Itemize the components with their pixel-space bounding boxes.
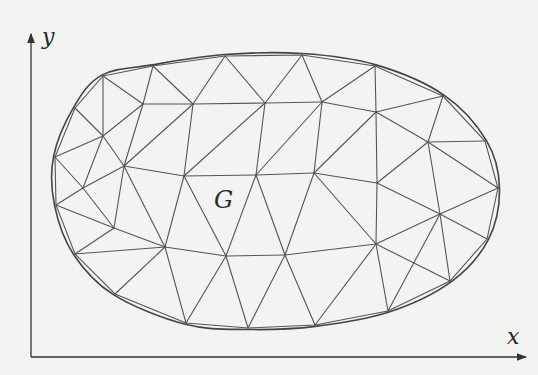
mesh-edge [428,142,440,214]
triangulated-region-diagram [0,0,538,375]
region-boundary [52,53,500,330]
mesh-edge [225,56,265,103]
mesh-edge [376,96,443,112]
mesh-edge [75,247,165,254]
mesh-edge [226,256,248,328]
mesh-edge [377,142,428,183]
mesh-edge [124,166,165,247]
mesh-edge [265,55,302,103]
mesh-edge [265,102,322,103]
mesh-edge [143,66,153,104]
mesh-edge [124,104,143,166]
mesh-edge [184,175,256,176]
mesh-edge [248,255,285,328]
mesh-edge [428,96,443,142]
mesh-boundary-polygon [55,55,498,328]
mesh-edge [314,173,376,244]
mesh-edge [103,104,143,136]
mesh-edge [440,188,498,214]
mesh-edge [256,102,322,175]
mesh-edge [322,66,375,102]
triangle-mesh [55,55,498,328]
mesh-edge [376,112,377,183]
mesh-edge [153,66,193,104]
x-axis-label: x [507,326,519,348]
mesh-edge [55,157,83,188]
mesh-edge [376,183,377,244]
mesh-edge [75,108,103,136]
mesh-edge [103,136,124,166]
mesh-edge [440,214,450,281]
mesh-edge [314,173,377,183]
mesh-edge [165,176,184,247]
mesh-edge [256,103,265,175]
mesh-edge [256,175,285,255]
mesh-edge [114,166,124,228]
mesh-edge [165,247,226,256]
mesh-edge [124,166,184,176]
mesh-edge [184,104,193,176]
mesh-edge [124,104,193,166]
mesh-edge [377,183,440,214]
mesh-edge [56,188,83,205]
mesh-edge [83,166,124,188]
mesh-edge [322,102,376,112]
mesh-edge [315,244,376,325]
mesh-edge [314,112,376,173]
mesh-edge [376,214,440,244]
mesh-edge [302,55,322,102]
mesh-edge [226,255,285,256]
region-label: G [214,188,233,212]
mesh-edge [376,112,428,142]
mesh-edge [193,103,265,104]
smooth-boundary-curve [52,53,500,330]
mesh-edge [75,228,114,254]
mesh-edge [428,141,485,142]
mesh-edge [375,66,376,112]
mesh-edge [376,244,388,311]
mesh-edge [285,244,376,255]
mesh-edge [314,102,322,173]
coordinate-axes [31,34,526,357]
mesh-edge [440,214,487,239]
mesh-edge [184,103,265,176]
mesh-edge [115,247,165,294]
mesh-edge [285,255,315,325]
mesh-edge [256,173,314,175]
y-axis-label: y [42,26,54,48]
mesh-edge [103,76,143,104]
mesh-edge [193,56,225,104]
mesh-edge [376,244,450,281]
mesh-edge [285,173,314,255]
mesh-edge [186,256,226,323]
mesh-edge [165,247,186,323]
